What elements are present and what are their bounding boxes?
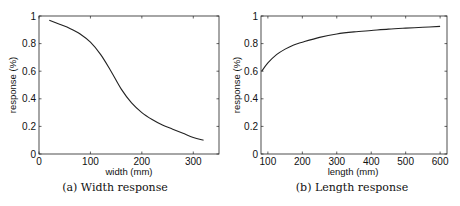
y-tick-label: 0.2	[22, 121, 36, 132]
x-tick-label: 100	[260, 156, 277, 167]
plot-frame	[261, 16, 447, 154]
x-tick-label: 500	[397, 156, 414, 167]
x-tick-label: 0	[36, 156, 42, 167]
response-curve	[262, 26, 440, 71]
y-tick-label: 0.2	[244, 121, 258, 132]
y-axis-ticks: 00.20.40.60.81	[22, 11, 219, 160]
caption: (b) Length response	[296, 181, 408, 194]
figure: 00.20.40.60.81 0100200300 width (mm) res…	[0, 0, 460, 206]
x-tick-label: 100	[82, 156, 99, 167]
x-tick-label: 300	[185, 156, 202, 167]
x-axis-label: width (mm)	[105, 166, 153, 177]
y-tick-label: 0.6	[22, 66, 36, 77]
caption: (a) Width response	[62, 181, 168, 194]
y-axis-label: response (%)	[231, 57, 242, 114]
plot-frame	[39, 16, 219, 154]
x-tick-label: 200	[294, 156, 311, 167]
y-tick-label: 0.8	[244, 38, 258, 49]
y-tick-label: 0.6	[244, 66, 258, 77]
x-axis-ticks: 100200300400500600	[260, 16, 449, 167]
x-axis-ticks: 0100200300	[36, 16, 202, 167]
x-axis-label: length (mm)	[328, 166, 379, 177]
length-response-chart: 00.20.40.60.81 100200300400500600 length…	[231, 11, 449, 195]
y-tick-label: 1	[252, 11, 258, 22]
y-axis-label: response (%)	[7, 57, 18, 114]
y-tick-label: 0.4	[244, 93, 258, 104]
y-tick-label: 0	[252, 149, 258, 160]
x-tick-label: 600	[432, 156, 449, 167]
y-tick-label: 0.8	[22, 38, 36, 49]
y-tick-label: 0.4	[22, 93, 36, 104]
width-response-chart: 00.20.40.60.81 0100200300 width (mm) res…	[7, 11, 219, 195]
y-tick-label: 1	[30, 11, 36, 22]
response-curve	[49, 20, 203, 140]
